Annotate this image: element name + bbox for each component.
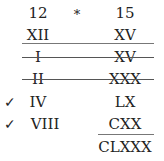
strike-line [22, 57, 154, 58]
check-icon: ✓ [4, 117, 16, 131]
multiplicand: 12 [28, 6, 47, 21]
sum-divider [98, 134, 154, 135]
result: CLXXX [98, 140, 151, 155]
strike-line [22, 79, 154, 80]
row-right: LX [115, 95, 136, 110]
header-divider [22, 43, 154, 44]
multiplier: 15 [115, 6, 134, 21]
check-icon: ✓ [4, 95, 16, 109]
row-left: VIII [31, 117, 60, 132]
row-right: CXX [109, 117, 142, 132]
multiply-operator: * [74, 8, 81, 21]
row-left: IV [30, 95, 47, 110]
row-right: XV [114, 28, 136, 43]
row-left: XII [27, 28, 50, 43]
